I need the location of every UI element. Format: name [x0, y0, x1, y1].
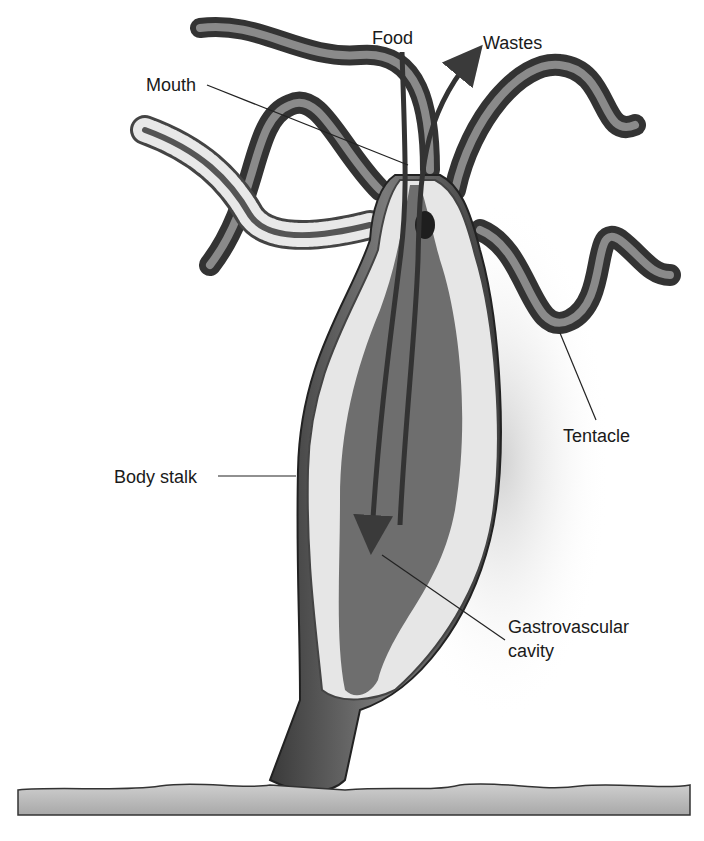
body-stalk-label: Body stalk: [114, 466, 197, 488]
gastrovascular-label-line1: Gastrovascular: [508, 616, 629, 638]
hydra-diagram: Food Wastes Mouth Tentacle Body stalk Ga…: [0, 0, 704, 841]
gastrovascular-label-line2: cavity: [508, 640, 554, 662]
tentacle-label: Tentacle: [563, 425, 630, 447]
substrate-ground: [18, 784, 690, 815]
mouth-label: Mouth: [146, 74, 196, 96]
food-label: Food: [372, 27, 413, 49]
hydra-illustration: [0, 0, 704, 841]
wastes-label: Wastes: [483, 32, 542, 54]
